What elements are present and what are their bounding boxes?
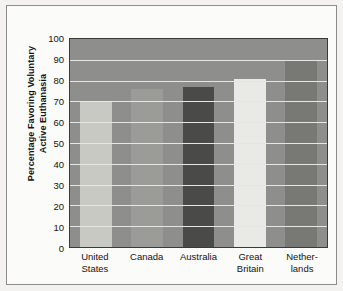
x-tick-label: Canada [121, 251, 173, 274]
y-tick-label: 30 [34, 180, 64, 191]
x-axis-ticks: United StatesCanadaAustraliaGreat Britai… [69, 251, 328, 274]
bar-slot [121, 39, 172, 247]
bar [183, 87, 215, 247]
bar [285, 60, 317, 247]
bar-slot [173, 39, 224, 247]
plot-wrap: 1009080706050403020100 [69, 38, 328, 248]
y-tick-label: 0 [34, 243, 64, 254]
y-tick-label: 90 [34, 54, 64, 65]
bar-slot [276, 39, 327, 247]
bar-slot [70, 39, 121, 247]
y-tick-label: 100 [34, 33, 64, 44]
bar [131, 89, 163, 247]
bar [234, 79, 266, 247]
y-tick-label: 80 [34, 75, 64, 86]
y-tick-label: 20 [34, 201, 64, 212]
bar-series [70, 39, 327, 247]
x-tick-label: Nether- lands [276, 251, 328, 274]
figure-page: Percentage Favoring Voluntary Active Eut… [0, 0, 343, 291]
plot-area [69, 38, 328, 248]
y-tick-label: 50 [34, 138, 64, 149]
y-tick-label: 40 [34, 159, 64, 170]
y-tick-label: 60 [34, 117, 64, 128]
y-tick-label: 10 [34, 222, 64, 233]
x-tick-label: United States [69, 251, 121, 274]
bar-slot [224, 39, 275, 247]
bar [80, 101, 112, 247]
figure-frame: Percentage Favoring Voluntary Active Eut… [6, 5, 337, 285]
x-tick-label: Great Britain [224, 251, 276, 274]
x-tick-label: Australia [173, 251, 225, 274]
y-tick-label: 70 [34, 96, 64, 107]
